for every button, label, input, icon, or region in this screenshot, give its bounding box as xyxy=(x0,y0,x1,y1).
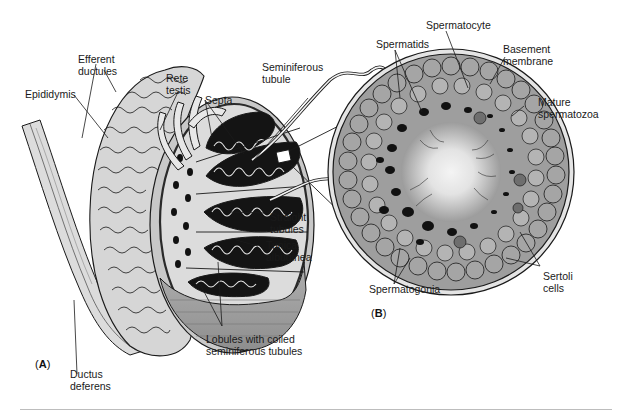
label-mature-spermatozoa: Mature spermatozoa xyxy=(538,97,599,120)
label-lobules: Lobules with coiled seminiferous tubules xyxy=(206,334,302,357)
label-efferent-ductules: Efferent ductules xyxy=(78,54,117,77)
label-spermatogonia: Spermatogonia xyxy=(369,284,440,296)
label-straight-tubules: Straight tubules xyxy=(270,212,306,235)
label-basement-membrane: Basement membrane xyxy=(503,44,553,67)
label-sertoli-cells: Sertoli cells xyxy=(543,271,573,294)
label-rete-testis: Rete testis xyxy=(166,73,191,96)
panel-b-tag: (B) xyxy=(371,307,386,319)
label-tunica-albuginea: Tunica albuginea xyxy=(266,240,312,263)
label-spermatids: Spermatids xyxy=(376,39,429,51)
label-septa: Septa xyxy=(205,95,232,107)
label-ductus-deferens: Ductus deferens xyxy=(70,369,111,392)
testis-diagram: Efferent ductules Rete testis Seminifero… xyxy=(0,0,619,417)
label-spermatocyte: Spermatocyte xyxy=(426,20,491,32)
panel-a-tag: (A) xyxy=(35,358,50,370)
panel-b-illustration xyxy=(328,49,574,295)
bottom-divider xyxy=(20,409,612,410)
label-epididymis: Epididymis xyxy=(25,89,76,101)
label-seminiferous-tubule: Seminiferous tubule xyxy=(262,62,323,85)
